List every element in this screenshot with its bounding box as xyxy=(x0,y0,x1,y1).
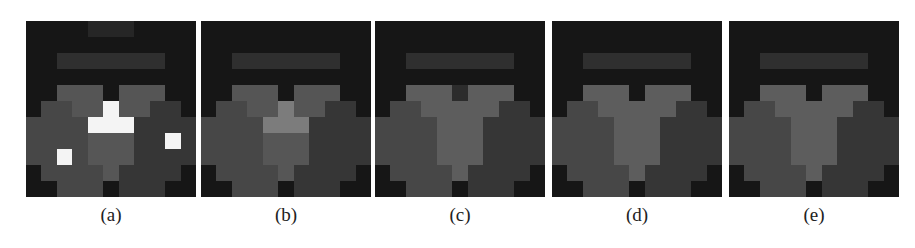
pixel-cell xyxy=(356,117,371,133)
pixel-cell xyxy=(676,165,691,181)
pixel-cell xyxy=(216,149,231,165)
pixel-cell xyxy=(294,69,309,85)
pixel-cell xyxy=(150,69,165,85)
pixel-cell xyxy=(216,165,231,181)
pixel-cell xyxy=(232,85,247,101)
pixel-cell xyxy=(806,133,821,149)
pixel-cell xyxy=(356,101,371,117)
pixel-cell xyxy=(853,69,868,85)
pixel-cell xyxy=(437,53,452,69)
pixel-cell xyxy=(760,117,775,133)
pixel-cell xyxy=(822,101,837,117)
pixel-cell xyxy=(760,53,775,69)
pixel-cell xyxy=(452,149,467,165)
pixel-cell xyxy=(421,165,436,181)
pixel-cell xyxy=(232,117,247,133)
pixel-cell xyxy=(598,117,613,133)
pixel-cell xyxy=(468,21,483,37)
pixel-cell xyxy=(868,53,883,69)
pixel-cell xyxy=(201,37,216,53)
pixel-cell xyxy=(247,85,262,101)
pixel-cell xyxy=(583,37,598,53)
pixel-cell xyxy=(41,37,56,53)
pixel-cell xyxy=(309,149,324,165)
pixel-cell xyxy=(103,37,118,53)
pixel-cell xyxy=(468,85,483,101)
pixel-cell xyxy=(598,181,613,197)
pixel-cell xyxy=(691,117,706,133)
label-d: (d) xyxy=(552,204,722,226)
panel-b xyxy=(201,21,371,197)
pixel-cell xyxy=(868,69,883,85)
pixel-cell xyxy=(806,69,821,85)
pixel-cell xyxy=(514,53,529,69)
pixel-cell xyxy=(181,85,196,101)
pixel-cell xyxy=(421,101,436,117)
pixel-cell xyxy=(806,149,821,165)
pixel-cell xyxy=(57,149,72,165)
pixel-cell xyxy=(201,21,216,37)
pixel-cell xyxy=(676,149,691,165)
pixel-cell xyxy=(375,69,390,85)
pixel-cell xyxy=(598,101,613,117)
pixel-cell xyxy=(645,21,660,37)
pixel-cell xyxy=(232,181,247,197)
pixel-cell xyxy=(375,181,390,197)
pixel-cell xyxy=(201,69,216,85)
pixel-cell xyxy=(452,181,467,197)
pixel-cell xyxy=(868,165,883,181)
panel-d xyxy=(552,21,722,197)
pixel-cell xyxy=(375,165,390,181)
pixel-cell xyxy=(567,21,582,37)
pixel-cell xyxy=(232,69,247,85)
pixel-cell xyxy=(216,181,231,197)
pixel-cell xyxy=(691,101,706,117)
pixel-cell xyxy=(340,165,355,181)
pixel-cell xyxy=(483,165,498,181)
pixel-grid-e xyxy=(729,21,899,197)
pixel-cell xyxy=(499,69,514,85)
pixel-cell xyxy=(837,69,852,85)
pixel-cell xyxy=(660,21,675,37)
pixel-cell xyxy=(375,53,390,69)
pixel-cell xyxy=(483,117,498,133)
pixel-cell xyxy=(676,117,691,133)
pixel-cell xyxy=(691,69,706,85)
pixel-cell xyxy=(791,85,806,101)
pixel-cell xyxy=(309,53,324,69)
pixel-cell xyxy=(468,37,483,53)
pixel-cell xyxy=(660,85,675,101)
pixel-cell xyxy=(775,53,790,69)
pixel-cell xyxy=(437,165,452,181)
pixel-cell xyxy=(660,149,675,165)
pixel-cell xyxy=(26,165,41,181)
pixel-cell xyxy=(660,101,675,117)
pixel-cell xyxy=(150,133,165,149)
pixel-cell xyxy=(72,117,87,133)
pixel-cell xyxy=(468,181,483,197)
pixel-cell xyxy=(676,53,691,69)
pixel-cell xyxy=(760,165,775,181)
pixel-cell xyxy=(483,69,498,85)
pixel-cell xyxy=(837,85,852,101)
pixel-cell xyxy=(645,85,660,101)
pixel-cell xyxy=(263,101,278,117)
pixel-cell xyxy=(499,165,514,181)
pixel-cell xyxy=(760,37,775,53)
pixel-cell xyxy=(629,21,644,37)
pixel-cell xyxy=(150,117,165,133)
pixel-cell xyxy=(216,37,231,53)
pixel-cell xyxy=(88,37,103,53)
pixel-cell xyxy=(614,69,629,85)
pixel-cell xyxy=(514,181,529,197)
pixel-cell xyxy=(598,53,613,69)
pixel-cell xyxy=(216,133,231,149)
pixel-cell xyxy=(676,85,691,101)
pixel-cell xyxy=(775,149,790,165)
pixel-cell xyxy=(294,181,309,197)
pixel-cell xyxy=(150,85,165,101)
pixel-cell xyxy=(165,165,180,181)
pixel-cell xyxy=(614,133,629,149)
pixel-cell xyxy=(629,149,644,165)
pixel-cell xyxy=(822,133,837,149)
